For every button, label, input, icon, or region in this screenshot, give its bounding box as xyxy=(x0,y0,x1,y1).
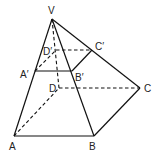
label-B-prime: B′ xyxy=(75,72,84,83)
label-C: C xyxy=(144,83,151,94)
label-D: D xyxy=(49,83,56,94)
edge-VC xyxy=(52,19,140,88)
label-A: A xyxy=(9,141,16,152)
pyramid-diagram: V A B C D A′ B′ C′ D′ xyxy=(0,0,160,153)
edge-VB xyxy=(52,19,94,136)
label-C-prime: C′ xyxy=(95,41,104,52)
label-B: B xyxy=(89,141,96,152)
label-V: V xyxy=(48,5,55,16)
hidden-edge-AD xyxy=(14,88,59,136)
label-D-prime: D′ xyxy=(43,46,52,57)
edge-B1C1 xyxy=(72,50,92,71)
label-A-prime: A′ xyxy=(20,69,29,80)
edge-BC xyxy=(94,88,140,136)
